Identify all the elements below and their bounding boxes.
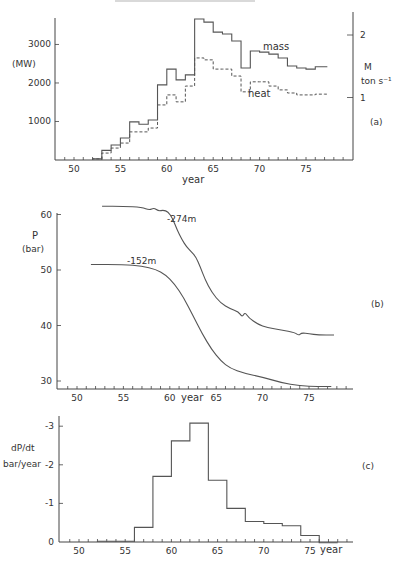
y-right-tick-label: 1 xyxy=(360,93,366,103)
curve-152m xyxy=(91,264,331,386)
y-tick-label: 0 xyxy=(48,537,54,547)
y-tick-label: 50 xyxy=(41,265,53,275)
x-tick-label: 55 xyxy=(118,393,129,403)
x-tick-label: 75 xyxy=(300,164,311,174)
x-tick-label: 50 xyxy=(68,164,80,174)
x-tick-label: 65 xyxy=(210,393,221,403)
dpdt-step-line xyxy=(97,423,337,543)
y-tick-label: 1000 xyxy=(28,116,51,126)
x-tick-label: 50 xyxy=(73,546,85,556)
heat-step-line xyxy=(93,58,328,160)
y-tick-label: 30 xyxy=(41,376,53,386)
panel-a-label: (a) xyxy=(370,117,383,127)
heat-label: heat xyxy=(248,88,271,99)
panel-c-axes xyxy=(59,416,353,542)
panel-b-ylabel-1: P xyxy=(32,230,38,241)
x-tick-label: 60 xyxy=(161,164,173,174)
mass-step-line xyxy=(93,19,328,160)
panel-c-y-ticks: 0-1-2-3 xyxy=(45,421,63,547)
x-tick-label: 65 xyxy=(212,546,223,556)
panel-a-ylabel-right-2: ton s⁻¹ xyxy=(361,76,392,86)
panel-a: 505560657075 10002000300012 mass heat (M… xyxy=(12,12,392,185)
panel-a-ylabel: (MW) xyxy=(12,59,36,69)
x-tick-label: 70 xyxy=(258,546,270,556)
x-tick-label: 50 xyxy=(71,393,83,403)
label-274m: -274m xyxy=(167,214,196,224)
x-tick-label: 60 xyxy=(166,546,178,556)
panel-b-axes xyxy=(57,213,353,389)
panel-b-y-ticks: 30405060 xyxy=(41,210,61,387)
x-tick-label: 55 xyxy=(115,164,126,174)
curve-274m xyxy=(102,206,334,335)
panel-c-ylabel-1: dP/dt xyxy=(11,443,35,453)
x-tick-label: 70 xyxy=(257,393,269,403)
panel-a-ylabel-right-1: M xyxy=(364,62,372,72)
mass-label: mass xyxy=(263,41,289,52)
x-tick-label: 70 xyxy=(254,164,266,174)
y-tick-label: 2000 xyxy=(28,78,51,88)
y-tick-label: 3000 xyxy=(28,39,51,49)
panel-b-ylabel-2: (bar) xyxy=(22,244,44,254)
panel-c: 505560657075 0-1-2-3 dP/dt bar/year (c) … xyxy=(3,416,374,556)
panel-a-axes xyxy=(55,12,353,160)
x-tick-label: 75 xyxy=(304,546,315,556)
figure: 505560657075 10002000300012 mass heat (M… xyxy=(0,0,395,563)
panel-b-xlabel: year xyxy=(181,392,204,403)
y-tick-label: -3 xyxy=(45,421,54,431)
x-tick-label: 60 xyxy=(164,393,176,403)
panel-b-label: (b) xyxy=(371,299,384,309)
x-tick-label: 55 xyxy=(119,546,130,556)
panel-c-label: (c) xyxy=(362,461,374,471)
panel-b: 505560657075 30405060 -274m -152m P (bar… xyxy=(22,206,384,403)
y-tick-label: 60 xyxy=(41,210,53,220)
y-right-tick-label: 2 xyxy=(360,30,366,40)
y-tick-label: 40 xyxy=(41,321,53,331)
y-tick-label: -2 xyxy=(45,460,54,470)
panel-a-y-ticks: 10002000300012 xyxy=(28,30,366,126)
panel-c-ylabel-2: bar/year xyxy=(3,459,41,469)
panel-c-xlabel: year xyxy=(320,544,343,555)
x-tick-label: 75 xyxy=(303,393,314,403)
panel-a-xlabel: year xyxy=(182,174,205,185)
y-tick-label: -1 xyxy=(45,498,54,508)
x-tick-label: 65 xyxy=(207,164,218,174)
label-152m: -152m xyxy=(127,256,156,266)
